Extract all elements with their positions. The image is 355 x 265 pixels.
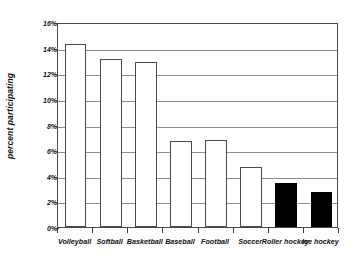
bar-ice-hockey xyxy=(311,192,333,227)
bar-softball xyxy=(100,59,122,227)
x-axis-tick-mark xyxy=(57,228,58,233)
bar-volleyball xyxy=(65,44,87,227)
y-axis-tick-label: 8% xyxy=(27,122,57,129)
y-axis-ticks: 0%2%4%6%8%10%12%14%16% xyxy=(22,0,57,265)
bar-soccer xyxy=(240,167,262,227)
bar-basketball xyxy=(135,62,157,227)
y-axis-title-label: percent participating xyxy=(5,73,15,159)
x-axis-tick-mark xyxy=(268,228,269,233)
x-axis-tick-mark xyxy=(92,228,93,233)
x-axis-tick-mark xyxy=(338,228,339,233)
x-axis-tick-mark xyxy=(162,228,163,233)
bar-chart: percent participating 0%2%4%6%8%10%12%14… xyxy=(0,0,355,265)
x-axis-label-ice-hockey: Ice hockey xyxy=(280,238,355,245)
y-axis-tick-label: 2% xyxy=(27,199,57,206)
y-axis-tick-label: 12% xyxy=(27,71,57,78)
y-axis-tick-label: 6% xyxy=(27,148,57,155)
x-axis-tick-mark xyxy=(127,228,128,233)
y-axis-tick-label: 16% xyxy=(27,20,57,27)
y-axis-tick-label: 14% xyxy=(27,45,57,52)
y-axis-tick-label: 10% xyxy=(27,96,57,103)
x-axis-tick-mark xyxy=(303,228,304,233)
bar-baseball xyxy=(170,141,192,227)
gridline xyxy=(58,50,337,51)
y-axis-title: percent participating xyxy=(0,0,20,232)
plot-area xyxy=(57,23,338,228)
x-axis-tick-mark xyxy=(198,228,199,233)
x-axis-tick-mark xyxy=(233,228,234,233)
bar-football xyxy=(205,140,227,227)
bar-roller-hockey xyxy=(275,183,297,227)
y-axis-tick-label: 4% xyxy=(27,173,57,180)
y-axis-tick-label: 0% xyxy=(27,225,57,232)
